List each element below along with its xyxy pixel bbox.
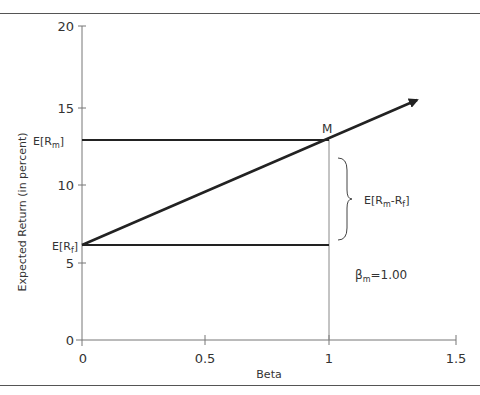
svg-text:1.5: 1.5: [446, 351, 467, 366]
svg-text:1: 1: [325, 351, 333, 366]
svg-text:5: 5: [66, 256, 74, 271]
y-ticks: [76, 26, 86, 340]
x-axis-label: Beta: [256, 368, 281, 381]
point-m-label: M: [322, 122, 332, 136]
brace-icon: [338, 158, 352, 240]
chart: 20 15 10 5 0 0 0.5 1 1.5 Beta Expected R…: [0, 0, 480, 395]
svg-text:20: 20: [57, 19, 74, 34]
risk-premium-label: E[Rm-Rf]: [364, 194, 409, 209]
y-axis-label: Expected Return (in percent): [16, 132, 29, 291]
svg-text:10: 10: [57, 178, 74, 193]
x-tick-labels: 0 0.5 1 1.5: [79, 351, 466, 366]
erm-label: E[Rm]: [33, 135, 64, 150]
y-tick-labels: 20 15 10 5 0: [57, 19, 74, 348]
erf-label: E[Rf]: [52, 240, 78, 255]
svg-text:0.5: 0.5: [195, 351, 216, 366]
beta-m-label: βm=1.00: [355, 268, 407, 284]
svg-text:0: 0: [66, 333, 74, 348]
svg-text:15: 15: [57, 101, 74, 116]
svg-text:0: 0: [79, 351, 87, 366]
security-market-line: [82, 100, 417, 245]
